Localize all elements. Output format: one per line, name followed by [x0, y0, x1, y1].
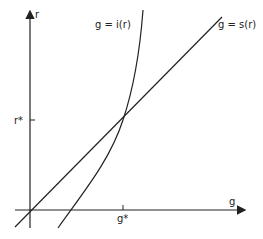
diagram-canvas: r g r* g* g = i(r) g = s(r) — [0, 0, 263, 239]
r-star-label: r* — [14, 115, 23, 126]
investment-curve — [58, 10, 143, 228]
saving-curve — [15, 17, 222, 227]
g-star-label: g* — [117, 213, 128, 224]
x-axis-label: g — [229, 196, 235, 207]
saving-curve-label: g = s(r) — [218, 19, 256, 30]
y-axis-label: r — [35, 9, 40, 20]
investment-curve-label: g = i(r) — [95, 19, 131, 30]
